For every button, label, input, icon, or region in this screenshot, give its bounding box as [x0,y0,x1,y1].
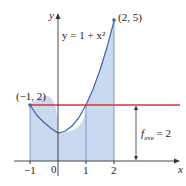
point-label-neg1-2: (−1, 2) [16,91,46,102]
x-tick-1: 1 [83,165,89,176]
y-axis-label: y [49,10,54,21]
x-axis-label: x [178,164,183,175]
point-2-5 [112,18,116,22]
fave-arrow-down-icon [134,156,138,161]
fave-arrow-up-icon [134,106,138,111]
x-tick-2: 2 [111,165,117,176]
fave-label: fave = 2 [141,128,171,142]
x-tick-neg1: −1 [24,165,36,176]
function-label: y = 1 + x² [62,30,105,41]
point-label-2-5: (2, 5) [118,12,142,23]
y-axis-arrow-icon [56,13,61,19]
x-tick-0: 0 [51,164,57,175]
point-neg1-2 [28,103,32,107]
